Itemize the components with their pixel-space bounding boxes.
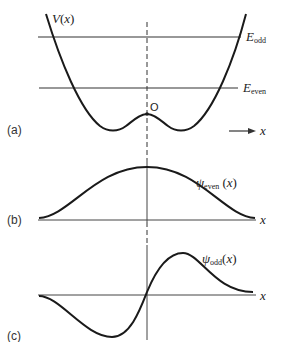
figure-graphics <box>0 0 282 342</box>
psi-odd-subscript: odd <box>210 258 222 267</box>
double-well-figure: V(x) Eodd Eeven O (a) x ψeven (x) (b) x … <box>0 0 282 342</box>
energy-even-subscript: even <box>251 87 266 96</box>
psi-symbol: ψ <box>196 175 204 190</box>
panel-a-label: (a) <box>7 124 22 136</box>
psi-symbol: ψ <box>202 251 210 266</box>
potential-label: V(x) <box>52 12 74 25</box>
energy-odd-label: Eodd <box>246 30 266 45</box>
energy-symbol: E <box>246 29 254 44</box>
energy-even-label: Eeven <box>243 81 266 96</box>
origin-point <box>145 112 149 116</box>
energy-odd-subscript: odd <box>254 36 266 45</box>
energy-symbol: E <box>243 80 251 95</box>
x-arrow-label: x <box>260 124 266 137</box>
origin-label: O <box>150 102 159 113</box>
panel-c-label: (c) <box>7 330 21 342</box>
x-direction-arrow-head <box>248 128 256 134</box>
panel-b-label: (b) <box>7 214 22 226</box>
psi-odd-label: ψodd(x) <box>202 252 237 267</box>
potential-symbol: V <box>52 11 60 26</box>
panel-c-x-label: x <box>260 289 266 302</box>
psi-even-subscript: even <box>204 182 219 191</box>
panel-b-x-label: x <box>260 213 266 226</box>
psi-even-label: ψeven (x) <box>196 176 237 191</box>
